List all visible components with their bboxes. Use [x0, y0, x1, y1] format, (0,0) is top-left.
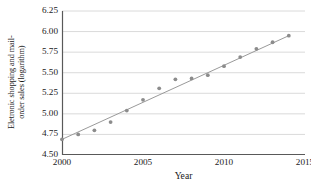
plot-area	[62, 11, 305, 155]
axis-lines	[62, 11, 305, 155]
y-axis-tick-labels: 4.504.755.005.255.505.756.006.25	[33, 11, 58, 155]
y-axis-tick-label: 6.00	[42, 27, 58, 36]
x-axis-tick-labels: 2000200520102015	[62, 157, 305, 170]
y-axis-tick-label: 5.75	[42, 48, 58, 57]
y-axis-tick-label: 6.25	[42, 6, 58, 15]
x-axis-tick-label: 2005	[134, 157, 152, 167]
trend-line-segment	[62, 36, 289, 140]
y-axis-title-line-1: Eletronic shopping and mail-	[7, 36, 17, 130]
data-point	[255, 47, 259, 51]
data-point	[174, 77, 178, 81]
plot-svg	[62, 11, 305, 155]
x-axis-title: Year	[62, 170, 305, 181]
gridlines	[62, 11, 305, 134]
data-point	[238, 55, 242, 59]
y-axis-tick-label: 4.75	[42, 130, 58, 139]
y-axis-tick-label: 5.00	[42, 109, 58, 118]
data-point	[271, 40, 275, 44]
x-axis-tick-label: 2000	[53, 157, 71, 167]
data-point	[157, 86, 161, 90]
data-point	[190, 77, 194, 81]
data-point	[109, 120, 113, 124]
data-point	[206, 73, 210, 77]
data-point	[222, 64, 226, 68]
trend-line	[62, 36, 289, 140]
x-axis-tick-label: 2010	[215, 157, 233, 167]
data-point	[93, 128, 97, 132]
y-axis-tick-label: 5.25	[42, 89, 58, 98]
chart-figure: Eletronic shopping and mail- order sales…	[0, 0, 311, 188]
data-point	[125, 109, 129, 113]
y-axis-tick-label: 5.50	[42, 68, 58, 77]
data-point	[60, 137, 64, 141]
data-point	[287, 34, 291, 38]
y-axis-title-line-2: order sales (logarithm)	[17, 36, 27, 130]
data-point	[141, 98, 145, 102]
data-point	[76, 133, 80, 137]
y-axis-title: Eletronic shopping and mail- order sales…	[0, 0, 34, 165]
x-axis-tick-label: 2015	[296, 157, 311, 167]
